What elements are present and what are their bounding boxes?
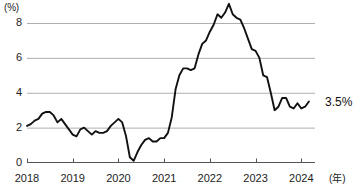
inflation-line-chart: (%) (年) 02468 20182019202020212022202320… (0, 0, 361, 194)
x-axis-unit-label: (年) (329, 173, 346, 184)
gridlines-group (27, 24, 315, 129)
y-axis-tick-label: 6 (6, 52, 22, 63)
y-axis-tick-label: 8 (6, 17, 22, 28)
y-axis-tick-label: 2 (6, 122, 22, 133)
x-axis-ticks-group (28, 159, 302, 163)
x-axis-tick-label: 2019 (53, 172, 93, 184)
x-axis-tick-label: 2023 (236, 172, 276, 184)
x-axis-tick-label: 2018 (7, 172, 47, 184)
x-axis-tick-label: 2022 (190, 172, 230, 184)
end-value-annotation: 3.5% (325, 96, 352, 109)
y-axis-unit-label: (%) (4, 2, 19, 13)
data-line-series (27, 4, 309, 161)
y-axis-tick-label: 0 (6, 157, 22, 168)
x-axis-tick-label: 2024 (281, 172, 321, 184)
x-axis-tick-label: 2021 (144, 172, 184, 184)
y-axis-tick-label: 4 (6, 87, 22, 98)
chart-canvas (0, 0, 361, 194)
x-axis-tick-label: 2020 (98, 172, 138, 184)
